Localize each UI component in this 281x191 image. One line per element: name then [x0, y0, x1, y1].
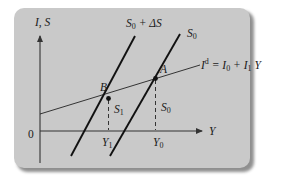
- investment-line: [40, 65, 200, 114]
- point-b: [106, 96, 111, 101]
- point-a: [153, 76, 158, 81]
- s0-drop-label: S0: [161, 101, 171, 115]
- origin-label: 0: [28, 128, 34, 140]
- y-axis-label: I, S: [34, 16, 51, 29]
- diagram-stage: I, S Y 0 Id = I0 + I1 Y S0 + ΔS S0 B A S…: [0, 0, 281, 191]
- savings-shifted-label: S0 + ΔS: [126, 17, 162, 31]
- savings-original-label: S0: [187, 27, 197, 41]
- savings-original-line: [110, 34, 180, 156]
- y1-tick-label: Y1: [102, 136, 112, 150]
- point-b-label: B: [100, 81, 107, 93]
- y0-tick-label: Y0: [153, 136, 163, 150]
- point-a-label: A: [159, 63, 168, 75]
- investment-label: Id = I0 + I1 Y: [200, 57, 262, 73]
- s1-label: S1: [114, 103, 124, 117]
- x-axis-label: Y: [209, 125, 217, 137]
- savings-investment-diagram: I, S Y 0 Id = I0 + I1 Y S0 + ΔS S0 B A S…: [0, 0, 281, 191]
